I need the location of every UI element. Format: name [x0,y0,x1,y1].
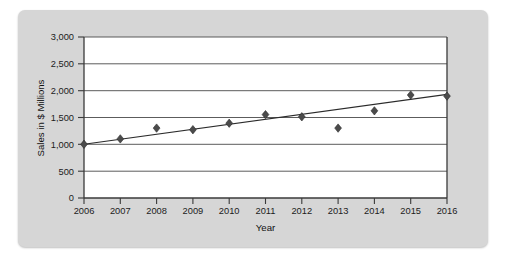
x-tick-label: 2006 [74,206,95,216]
x-axis-label: Year [256,222,276,233]
y-tick-label: 500 [58,167,74,177]
x-tick-label: 2016 [437,206,458,216]
x-tickmarks [84,198,447,204]
x-tick-label: 2015 [400,206,421,216]
y-tick-label: 1,500 [51,113,74,123]
chart-figure: 3,000 2,500 2,000 1,500 1,000 500 0 2006… [18,10,488,247]
x-tick-label: 2011 [256,206,276,216]
y-tick-label: 1,000 [51,140,74,150]
y-tickmarks [78,37,84,198]
y-tick-label: 2,500 [51,59,74,69]
y-tick-labels: 3,000 2,500 2,000 1,500 1,000 500 0 [51,32,74,203]
x-tick-labels: 2006 2007 2008 2009 2010 2011 2012 2013 … [74,206,458,216]
y-tick-label: 0 [69,193,74,203]
y-axis-label: Sales in $ Millions [35,79,46,156]
x-tick-label: 2013 [328,206,349,216]
y-tick-label: 2,000 [51,86,74,96]
x-tick-label: 2014 [364,206,385,216]
x-tick-label: 2009 [183,206,204,216]
x-tick-label: 2010 [219,206,240,216]
x-tick-label: 2008 [146,206,167,216]
chart-plot-area: 3,000 2,500 2,000 1,500 1,000 500 0 2006… [18,10,488,247]
x-tick-label: 2007 [110,206,131,216]
chart-svg: 3,000 2,500 2,000 1,500 1,000 500 0 2006… [18,10,488,247]
y-tick-label: 3,000 [51,32,74,42]
x-tick-label: 2012 [291,206,312,216]
